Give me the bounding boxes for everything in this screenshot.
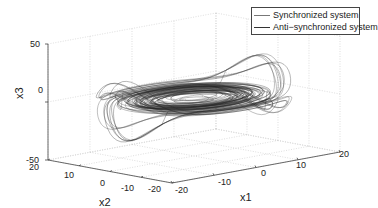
x1-tick-neg20: -20 — [175, 185, 188, 195]
x1-tick-neg10: -10 — [218, 177, 231, 187]
legend-item-anti-synchronized: Anti−synchronized system — [252, 21, 378, 33]
x1-axis-label: x1 — [240, 191, 252, 203]
x2-axis-label: x2 — [99, 196, 111, 208]
x2-tick-20: 20 — [29, 162, 39, 172]
legend-line-icon — [254, 27, 270, 28]
x2-tick-neg20: -20 — [148, 184, 161, 194]
x2-tick-10: 10 — [64, 170, 74, 180]
legend-label: Anti−synchronized system — [273, 21, 378, 33]
x1-tick-10: 10 — [296, 160, 306, 170]
x3-axis-label: x3 — [13, 87, 25, 99]
legend-item-synchronized: Synchronized system — [252, 9, 359, 21]
grid-lines — [48, 13, 340, 183]
x3-tick-50: 50 — [30, 39, 40, 49]
x2-tick-neg10: -10 — [121, 183, 134, 193]
legend-line-icon — [254, 15, 270, 16]
x1-tick-0: 0 — [261, 168, 266, 178]
legend-label: Synchronized system — [273, 9, 359, 21]
x3-tick-0: 0 — [38, 85, 43, 95]
trajectory-plot — [96, 54, 291, 142]
legend: Synchronized system Anti−synchronized sy… — [251, 7, 360, 35]
tick-labels: 50 0 -50 20 10 0 -10 -20 -20 -10 0 10 20 — [26, 39, 349, 195]
x1-tick-20: 20 — [339, 149, 349, 159]
x2-tick-0: 0 — [100, 178, 105, 188]
